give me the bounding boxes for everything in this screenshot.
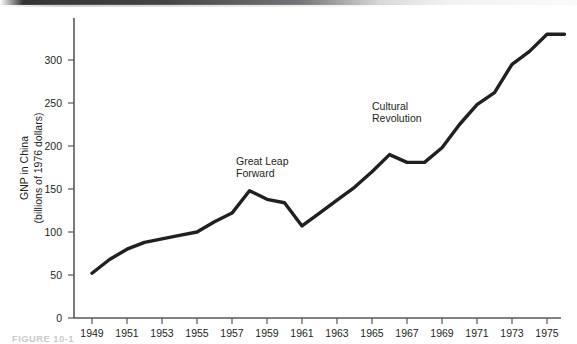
annotation-cultural-revolution-line-2: Revolution xyxy=(372,112,422,124)
x-tick-label-1975: 1975 xyxy=(535,327,559,339)
y-tick-label-0: 0 xyxy=(56,312,62,324)
y-axis-title: GNP in China (billions of 1976 dollars) xyxy=(18,113,44,224)
x-tick-label-1951: 1951 xyxy=(115,327,139,339)
chart-axes xyxy=(74,18,561,318)
x-tick-label-1965: 1965 xyxy=(360,327,384,339)
gnp-line-path xyxy=(92,34,565,273)
x-tick-label-1949: 1949 xyxy=(80,327,104,339)
x-tick-label-1957: 1957 xyxy=(220,327,244,339)
x-axis-ticks: 1949 1951 1953 1955 1957 1959 1961 1963 … xyxy=(80,318,559,339)
x-tick-label-1959: 1959 xyxy=(255,327,279,339)
x-tick-label-1961: 1961 xyxy=(290,327,314,339)
gnp-line-chart: 0 50 100 150 200 250 300 1949 1951 xyxy=(0,0,577,344)
y-tick-label-150: 150 xyxy=(44,183,62,195)
y-tick-label-250: 250 xyxy=(44,97,62,109)
x-tick-label-1953: 1953 xyxy=(150,327,174,339)
y-tick-label-300: 300 xyxy=(44,54,62,66)
x-tick-label-1963: 1963 xyxy=(325,327,349,339)
x-tick-label-1955: 1955 xyxy=(185,327,209,339)
y-tick-label-50: 50 xyxy=(50,269,62,281)
y-axis-title-line-2: (billions of 1976 dollars) xyxy=(32,113,44,224)
y-tick-label-200: 200 xyxy=(44,140,62,152)
annotation-great-leap-forward-line-2: Forward xyxy=(236,167,275,179)
annotation-great-leap-forward: Great Leap Forward xyxy=(236,155,289,179)
x-tick-label-1969: 1969 xyxy=(430,327,454,339)
figure-caption: FIGURE 10-1 xyxy=(12,333,74,344)
x-tick-label-1973: 1973 xyxy=(500,327,524,339)
annotation-cultural-revolution-line-1: Cultural xyxy=(372,100,408,112)
figure-container: 0 50 100 150 200 250 300 1949 1951 xyxy=(0,0,577,344)
annotation-great-leap-forward-line-1: Great Leap xyxy=(236,155,289,167)
y-tick-label-100: 100 xyxy=(44,226,62,238)
x-tick-label-1971: 1971 xyxy=(465,327,489,339)
data-series-gnp-in-china xyxy=(92,34,565,273)
x-tick-label-1967: 1967 xyxy=(395,327,419,339)
y-axis-title-line-1: GNP in China xyxy=(18,136,30,200)
annotation-cultural-revolution: Cultural Revolution xyxy=(372,100,422,124)
y-axis-ticks: 0 50 100 150 200 250 300 xyxy=(44,54,74,324)
